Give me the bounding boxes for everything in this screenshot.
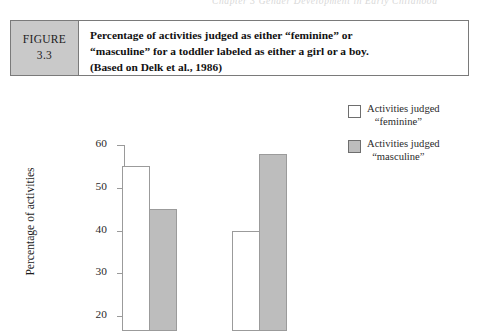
y-axis-tick-label: 30 bbox=[79, 265, 107, 277]
legend-feminine-line1: Activities judged bbox=[367, 103, 440, 114]
figure-caption-block: FIGURE 3.3 Percentage of activities judg… bbox=[10, 20, 469, 76]
y-axis-tick-label: 50 bbox=[79, 180, 107, 192]
figure-number-tag: FIGURE 3.3 bbox=[11, 21, 79, 75]
y-axis-tick bbox=[117, 231, 125, 232]
legend-item-feminine-label: Activities judged “feminine” bbox=[367, 103, 440, 129]
legend-masculine-line1: Activities judged bbox=[367, 138, 440, 149]
legend-item-masculine-label: Activities judged “masculine” bbox=[367, 138, 440, 164]
y-axis-tick-label: 20 bbox=[79, 308, 107, 320]
white-swatch-icon bbox=[348, 105, 361, 118]
y-axis-tick bbox=[117, 188, 125, 189]
y-axis-title: Percentage of activities bbox=[24, 147, 37, 297]
y-axis-tick bbox=[117, 273, 125, 274]
y-axis-tick bbox=[117, 145, 125, 146]
caption-line-2: “masculine” for a toddler labeled as eit… bbox=[90, 43, 460, 59]
bar bbox=[122, 166, 150, 331]
y-axis-tick-label: 40 bbox=[79, 223, 107, 235]
figure-caption-text: Percentage of activities judged as eithe… bbox=[79, 21, 468, 75]
legend-feminine-line2: “feminine” bbox=[367, 116, 440, 129]
y-axis-line bbox=[124, 145, 125, 331]
legend-masculine-line2: “masculine” bbox=[367, 151, 440, 164]
y-axis-tick bbox=[117, 316, 125, 317]
figure-tag-number: 3.3 bbox=[37, 48, 52, 64]
bar bbox=[232, 231, 260, 331]
caption-line-1: Percentage of activities judged as eithe… bbox=[90, 27, 460, 43]
gray-swatch-icon bbox=[348, 140, 361, 153]
caption-line-3: (Based on Delk et al., 1986) bbox=[90, 59, 460, 75]
figure-tag-word: FIGURE bbox=[23, 32, 66, 48]
bar bbox=[259, 154, 287, 331]
bar bbox=[149, 209, 177, 331]
chart-legend: Activities judged “feminine” Activities … bbox=[348, 103, 480, 173]
legend-item-masculine: Activities judged “masculine” bbox=[348, 138, 480, 164]
legend-item-feminine: Activities judged “feminine” bbox=[348, 103, 480, 129]
running-head: Chapter 3 Gender Development in Early Ch… bbox=[212, 0, 480, 8]
y-axis-tick-label: 60 bbox=[79, 137, 107, 149]
